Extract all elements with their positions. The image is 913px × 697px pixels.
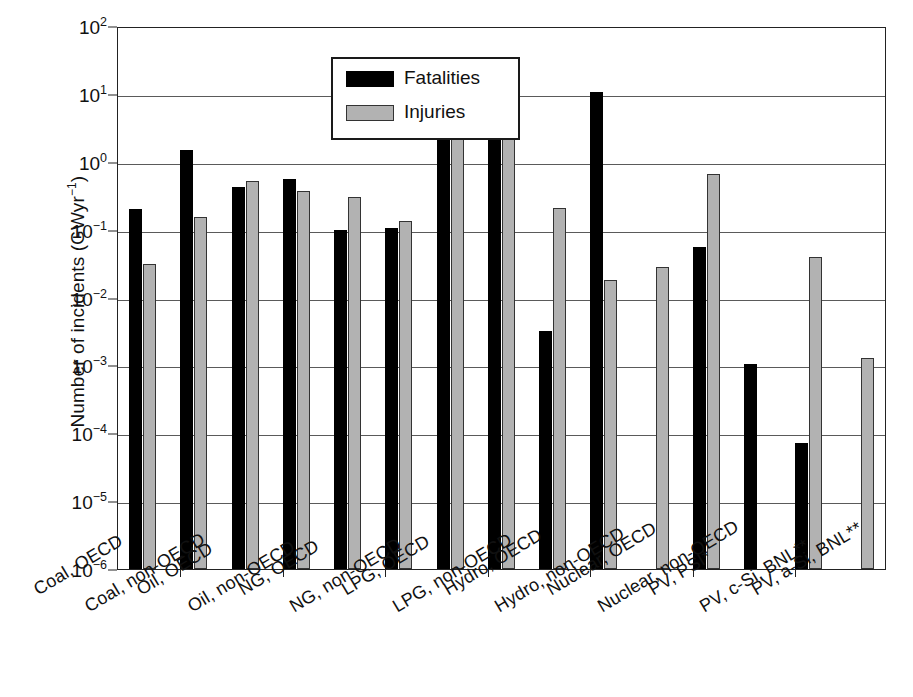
legend: Fatalities Injuries <box>331 57 520 140</box>
y-tick-label: 10−2 <box>72 287 107 310</box>
bar-group <box>283 28 334 569</box>
bar-injuries <box>656 267 669 569</box>
bar-injuries <box>451 84 464 569</box>
bar-fatalities <box>539 331 552 569</box>
bar-injuries <box>502 102 515 569</box>
bar-injuries <box>809 257 822 569</box>
y-tick-exponent: −3 <box>93 355 107 369</box>
plot-area: Fatalities Injuries <box>117 27 886 570</box>
bar-group <box>129 28 180 569</box>
bar-group <box>180 28 231 569</box>
y-tick-base: 10 <box>79 85 100 106</box>
bar-injuries <box>297 191 310 569</box>
x-axis-category-labels: Coal, OECDCoal, non-OECDOil, OECDOil, no… <box>0 570 913 697</box>
bar-injuries <box>399 221 412 569</box>
legend-swatch-injuries <box>346 105 394 121</box>
bar-fatalities <box>283 179 296 569</box>
bar-injuries <box>707 174 720 569</box>
y-tick-mark <box>108 27 117 28</box>
bar-fatalities <box>334 230 347 569</box>
bar-injuries <box>143 264 156 569</box>
y-tick-label: 10−5 <box>72 490 107 513</box>
legend-swatch-fatalities <box>346 71 394 87</box>
y-tick-base: 10 <box>72 288 93 309</box>
bar-injuries <box>194 217 207 569</box>
y-tick-mark <box>108 502 117 503</box>
bar-group <box>232 28 283 569</box>
bar-group <box>642 28 693 569</box>
y-tick-exponent: 1 <box>100 83 107 97</box>
y-tick-base: 10 <box>79 152 100 173</box>
y-tick-mark <box>108 162 117 163</box>
bar-injuries <box>246 181 259 569</box>
y-tick-mark <box>108 94 117 95</box>
y-tick-mark <box>108 298 117 299</box>
chart-figure: Number of incidents (GWyr−1) 10210110010… <box>0 0 913 697</box>
bar-group <box>847 28 898 569</box>
y-tick-label: 102 <box>79 15 107 38</box>
y-tick-base: 10 <box>72 220 93 241</box>
legend-label-fatalities: Fatalities <box>404 67 480 89</box>
bar-injuries <box>553 208 566 569</box>
y-tick-label: 100 <box>79 151 107 174</box>
legend-label-injuries: Injuries <box>404 101 465 123</box>
y-tick-base: 10 <box>72 492 93 513</box>
y-tick-label: 10−4 <box>72 423 107 446</box>
bar-fatalities <box>129 209 142 569</box>
bar-fatalities <box>232 187 245 569</box>
y-tick-exponent: 2 <box>100 15 107 29</box>
y-tick-mark <box>108 434 117 435</box>
bar-fatalities <box>590 92 603 569</box>
bar-fatalities <box>693 247 706 569</box>
y-tick-base: 10 <box>72 356 93 377</box>
bar-group <box>795 28 846 569</box>
y-tick-base: 10 <box>72 424 93 445</box>
y-tick-exponent: 0 <box>100 151 107 165</box>
bar-fatalities <box>488 113 501 569</box>
y-tick-exponent: −4 <box>93 423 107 437</box>
y-tick-mark <box>108 366 117 367</box>
bar-fatalities <box>744 364 757 569</box>
bar-fatalities <box>437 127 450 569</box>
y-tick-exponent: −1 <box>93 219 107 233</box>
y-tick-label: 10−1 <box>72 219 107 242</box>
bar-group <box>539 28 590 569</box>
y-tick-mark <box>108 230 117 231</box>
bar-group <box>744 28 795 569</box>
y-tick-label: 101 <box>79 83 107 106</box>
bar-fatalities <box>385 228 398 569</box>
y-tick-exponent: −5 <box>93 490 107 504</box>
bar-fatalities <box>180 150 193 569</box>
y-tick-exponent: −2 <box>93 287 107 301</box>
y-tick-base: 10 <box>79 17 100 38</box>
y-tick-label: 10−3 <box>72 355 107 378</box>
bar-group <box>693 28 744 569</box>
bar-injuries <box>348 197 361 569</box>
bar-group <box>590 28 641 569</box>
